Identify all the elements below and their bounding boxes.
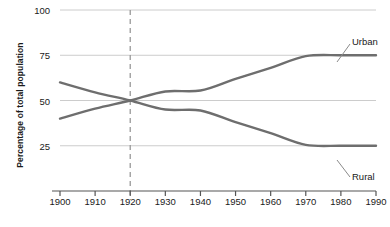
chart-container: Percentage of total population 255075100… xyxy=(0,0,390,227)
x-axis-tick-label: 1970 xyxy=(295,196,316,207)
x-axis-tick-label: 1920 xyxy=(120,196,141,207)
x-axis-tick-label: 1980 xyxy=(330,196,351,207)
x-axis-tick-label: 1940 xyxy=(190,196,211,207)
x-axis-tick-label: 1910 xyxy=(85,196,106,207)
series-label-rural: Rural xyxy=(352,171,375,182)
x-axis-tick-label: 1950 xyxy=(225,196,246,207)
series-label-urban: Urban xyxy=(352,36,378,47)
x-axis-tick-label: 1990 xyxy=(365,196,386,207)
series-line-rural xyxy=(60,82,376,146)
leader-line-urban xyxy=(337,44,350,62)
x-axis-tick-label: 1960 xyxy=(260,196,281,207)
leader-line-rural xyxy=(337,160,350,177)
x-axis-tick-label: 1900 xyxy=(49,196,70,207)
chart-plot-area xyxy=(0,0,390,227)
x-axis-tick-label: 1930 xyxy=(155,196,176,207)
series-line-urban xyxy=(60,55,376,119)
